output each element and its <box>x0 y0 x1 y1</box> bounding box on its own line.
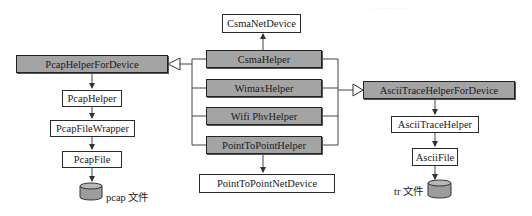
node-csma-helper: CsmaHelper <box>206 50 322 68</box>
tr-file-label: tr 文件 <box>394 183 423 198</box>
pcap-file-label: pcap 文件 <box>106 189 148 204</box>
node-ascii-trace-helper-for-device: AsciiTraceHelperForDevice <box>363 81 515 99</box>
node-ascii-file: AsciiFile <box>412 148 458 166</box>
diagram-canvas: ………… <box>0 0 532 216</box>
node-csma-net-device: CsmaNetDevice <box>222 14 301 33</box>
database-cylinder-icon <box>428 180 451 198</box>
node-pcap-file: PcapFile <box>62 151 122 168</box>
node-pcap-file-wrapper: PcapFileWrapper <box>50 120 135 137</box>
node-pcap-helper-for-device: PcapHelperForDevice <box>16 55 168 73</box>
node-point-to-point-helper: PointToPointHelper <box>206 136 322 154</box>
node-pcap-helper: PcapHelper <box>62 90 122 107</box>
node-wifi-phy-helper: Wifi PhvHelper <box>206 107 322 125</box>
node-wimax-helper: WimaxHelper <box>206 79 322 97</box>
database-cylinder-icon <box>80 183 102 200</box>
node-ascii-trace-helper: AsciiTraceHelper <box>391 116 479 133</box>
inheritance-triangle-ascii <box>353 84 363 96</box>
inheritance-triangle-pcap <box>168 58 180 70</box>
node-point-to-point-net-device: PointToPointNetDevice <box>199 174 335 193</box>
